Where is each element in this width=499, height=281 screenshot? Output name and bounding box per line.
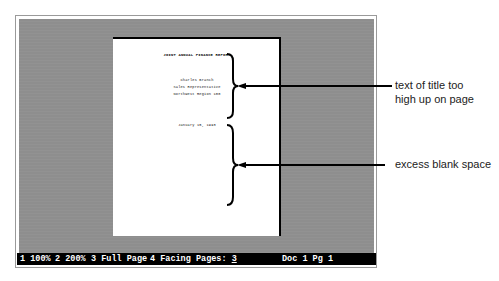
annotation-excess-space: excess blank space (395, 157, 491, 171)
full-page-option[interactable]: 3 Full Page (91, 253, 147, 265)
option-label: Facing Pages: (160, 254, 226, 264)
doc-page-indicator: Doc 1 Pg 1 (282, 253, 333, 265)
facing-pages-option[interactable]: 4 Facing Pages: 3 (150, 253, 237, 265)
option-key: 1 (20, 254, 25, 264)
option-key: 2 (55, 254, 60, 264)
author-name: Charles Branch (113, 78, 281, 82)
document-title: JOINT ANNUAL FINANCE REPORT (113, 53, 281, 57)
zoom-200-option[interactable]: 2 200% (55, 253, 86, 265)
zoom-100-option[interactable]: 1 100% (20, 253, 51, 265)
annotation-line: excess blank space (395, 157, 491, 171)
callout-line (244, 85, 392, 87)
status-bar: 1 100% 2 200% 3 Full Page 4 Facing Pages… (17, 253, 376, 265)
annotation-title-too-high: text of title too high up on page (395, 78, 474, 106)
callout-line (244, 164, 385, 166)
selection-input[interactable]: 3 (232, 254, 237, 264)
document-date: January 15, 1993 (113, 123, 281, 127)
option-label: 100% (30, 254, 50, 264)
option-label: 200% (65, 254, 85, 264)
option-label: Full Page (101, 254, 147, 264)
annotation-line: text of title too (395, 78, 474, 92)
document-page-preview[interactable]: JOINT ANNUAL FINANCE REPORT Charles Bran… (113, 37, 281, 236)
option-key: 3 (91, 254, 96, 264)
annotation-line: high up on page (395, 92, 474, 106)
author-region: Northwest Region 100 (113, 92, 281, 96)
option-key: 4 (150, 254, 155, 264)
